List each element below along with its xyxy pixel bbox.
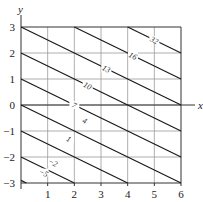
contour-label: 32 [148, 34, 160, 46]
x-tick-label: 1 [45, 188, 51, 200]
x-tick-label: 2 [72, 188, 78, 200]
x-tick-label: 4 [125, 188, 131, 200]
y-axis-label: y [17, 3, 23, 15]
contour-chart: 32161310741−2−5 1234563210−1−2−3 x y [0, 0, 203, 202]
tick-labels: 1234563210−1−2−3 [3, 21, 184, 200]
y-tick-label: −2 [3, 151, 15, 163]
x-axis-label: x [197, 99, 203, 111]
x-tick-label: 6 [178, 188, 184, 200]
x-tick-label: 3 [98, 188, 104, 200]
y-tick-label: −1 [3, 125, 15, 137]
y-tick-label: 2 [10, 47, 16, 59]
y-tick-label: 1 [10, 73, 16, 85]
y-tick-label: 0 [10, 99, 16, 111]
y-tick-label: 3 [10, 21, 16, 33]
y-tick-label: −3 [3, 177, 15, 189]
x-tick-label: 5 [152, 188, 158, 200]
